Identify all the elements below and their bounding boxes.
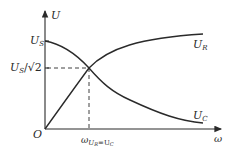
- y-axis-label: U: [51, 9, 61, 22]
- us-label: US: [30, 34, 44, 48]
- ur-label: UR: [193, 38, 208, 52]
- uc-label: UC: [193, 109, 208, 123]
- voltage-frequency-diagram: U ω O US US/√2 ωUR=UC UR UC: [0, 0, 228, 154]
- origin-label: O: [33, 128, 42, 141]
- uc-curve: [45, 41, 203, 123]
- ur-curve: [45, 34, 203, 129]
- x-axis-label: ω: [214, 133, 222, 144]
- us-sqrt2-label: US/√2: [10, 61, 42, 75]
- omega-cross-label: ωUR=UC: [81, 135, 114, 147]
